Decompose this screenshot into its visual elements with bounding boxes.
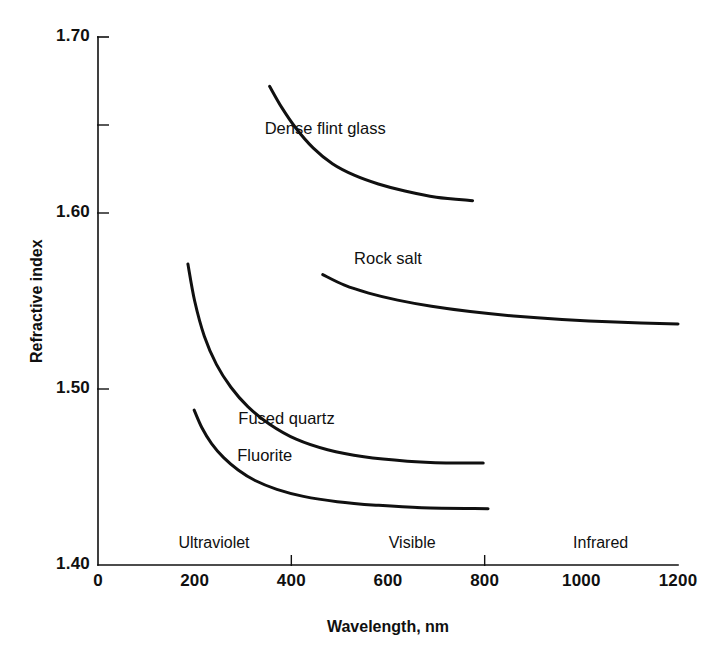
series-curve-dense-flint-glass [270,86,473,200]
series-label-fused-quartz: Fused quartz [238,409,334,428]
y-tick-label: 1.50 [32,378,90,398]
y-axis-title: Refractive index [28,239,46,363]
x-tick-label: 1200 [638,571,702,591]
y-tick-label: 1.70 [32,26,90,46]
series-label-dense-flint-glass: Dense flint glass [265,119,386,138]
x-tick-label: 600 [348,571,428,591]
x-axis-title: Wavelength, nm [327,618,449,636]
band-label-ultraviolet: Ultraviolet [178,534,249,552]
y-tick-label: 1.60 [32,202,90,222]
series-label-rock-salt: Rock salt [354,249,422,268]
refractive-index-chart: 1.401.501.601.70 020040060080010001200 D… [0,0,702,659]
axes-group [97,37,678,566]
x-tick-label: 200 [155,571,235,591]
x-tick-label: 400 [251,571,331,591]
series-label-fluorite: Fluorite [237,446,292,465]
x-tick-label: 1000 [541,571,621,591]
series-curve-fused-quartz [188,264,483,463]
band-label-visible: Visible [389,534,436,552]
series-curve-rock-salt [323,275,678,324]
x-tick-label: 0 [58,571,138,591]
chart-canvas [0,0,702,659]
x-tick-label: 800 [445,571,525,591]
band-label-infrared: Infrared [573,534,628,552]
